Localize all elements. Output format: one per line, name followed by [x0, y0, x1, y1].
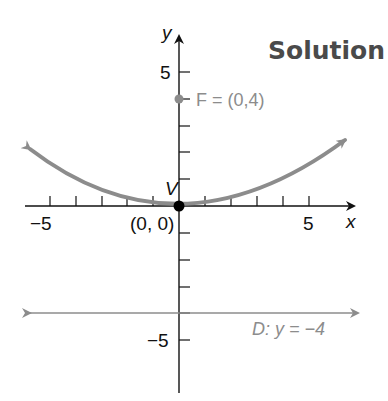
parabola-curve — [30, 140, 345, 204]
y-axis-label: y — [160, 22, 173, 43]
x-axis-label: x — [345, 211, 357, 232]
vertex-coords-label: (0, 0) — [130, 213, 174, 234]
y-axis — [179, 36, 190, 393]
vertex-point — [174, 201, 185, 212]
focus-point — [175, 95, 184, 104]
parabola-chart: y x −5 5 5 −5 F = (0,4) V (0, 0) D: y = … — [0, 0, 388, 401]
vertex-label: V — [165, 178, 180, 199]
y-tick-label-5: 5 — [160, 62, 171, 83]
y-tick-label-neg5: −5 — [147, 330, 169, 351]
directrix-label: D: y = −4 — [252, 319, 325, 339]
x-tick-label-5: 5 — [303, 213, 314, 234]
focus-label: F = (0,4) — [196, 90, 265, 110]
x-tick-label-neg5: −5 — [30, 213, 52, 234]
